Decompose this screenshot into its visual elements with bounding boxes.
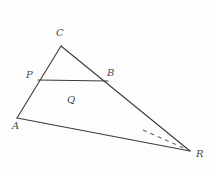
segment-p-b (38, 80, 108, 81)
dashed-extension-to-r (143, 130, 188, 150)
vertex-label-a: A (12, 121, 19, 131)
vertex-label-p: P (26, 70, 33, 80)
vertex-label-r: R (196, 149, 204, 159)
segment-a-r (17, 118, 190, 151)
vertex-label-b: B (107, 68, 114, 78)
dashed-segment-group (143, 130, 188, 150)
segment-a-c (17, 46, 61, 118)
geometry-figure: C P B Q A R (0, 0, 216, 173)
geometry-canvas (0, 0, 216, 173)
vertex-label-c: C (56, 28, 64, 38)
vertex-label-q: Q (67, 95, 75, 105)
segment-c-r (61, 46, 190, 151)
segment-group (17, 46, 190, 151)
